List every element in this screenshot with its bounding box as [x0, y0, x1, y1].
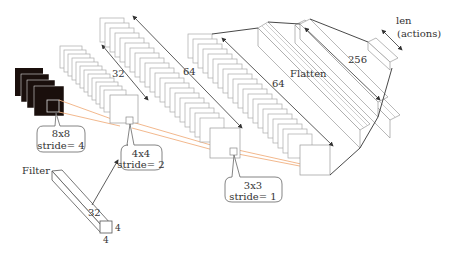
filter-label: Filter [22, 165, 50, 176]
conv3-channels-label: 64 [272, 78, 285, 89]
kernel-window-3x3 [230, 148, 237, 155]
callout-3x3-stride: stride= 1 [229, 191, 276, 202]
filter-height-label: 4 [103, 235, 109, 245]
cnn-diagram: 32 64 [0, 0, 450, 255]
output-label-line2: (actions) [397, 28, 441, 39]
callout-3x3-size: 3x3 [244, 180, 262, 191]
filter-width-label: 4 [115, 223, 121, 233]
conv2-channels-label: 64 [183, 66, 196, 77]
output-label-line1: len [396, 15, 412, 26]
output-layer [368, 38, 398, 70]
filter-prism [52, 170, 112, 233]
callout-8x8-size: 8x8 [52, 128, 70, 139]
callout-4x4-size: 4x4 [132, 148, 150, 159]
callout-4x4-stride: stride= 2 [117, 159, 164, 170]
flatten-label: Flatten [290, 68, 327, 79]
dense-units-label: 256 [348, 54, 367, 65]
filter-pointer-arrow [92, 160, 118, 205]
filter-depth-label: 32 [88, 207, 101, 218]
callout-8x8: 8x8 stride= 4 [37, 113, 85, 152]
conv1-channels-label: 32 [112, 68, 125, 79]
callout-8x8-stride: stride= 4 [37, 140, 84, 151]
callout-3x3: 3x3 stride= 1 [225, 155, 282, 202]
input-frames [15, 68, 64, 116]
kernel-window-4x4 [126, 117, 133, 124]
